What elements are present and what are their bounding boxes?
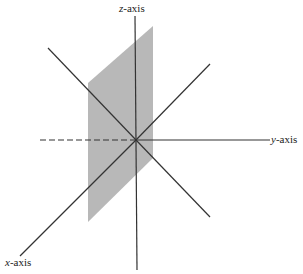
- y-axis-label: y-axis: [271, 134, 297, 145]
- y-axis-label-suffix: -axis: [276, 133, 297, 145]
- x-axis-label-suffix: -axis: [10, 256, 31, 268]
- x-axis-line: [20, 140, 136, 256]
- z-axis-label-suffix: -axis: [123, 2, 144, 14]
- x-axis-label: x-axis: [5, 257, 31, 268]
- coordinate-diagram: [0, 0, 303, 274]
- diagonal-line-lower-right: [136, 140, 210, 217]
- z-axis-label: z-axis: [119, 3, 145, 14]
